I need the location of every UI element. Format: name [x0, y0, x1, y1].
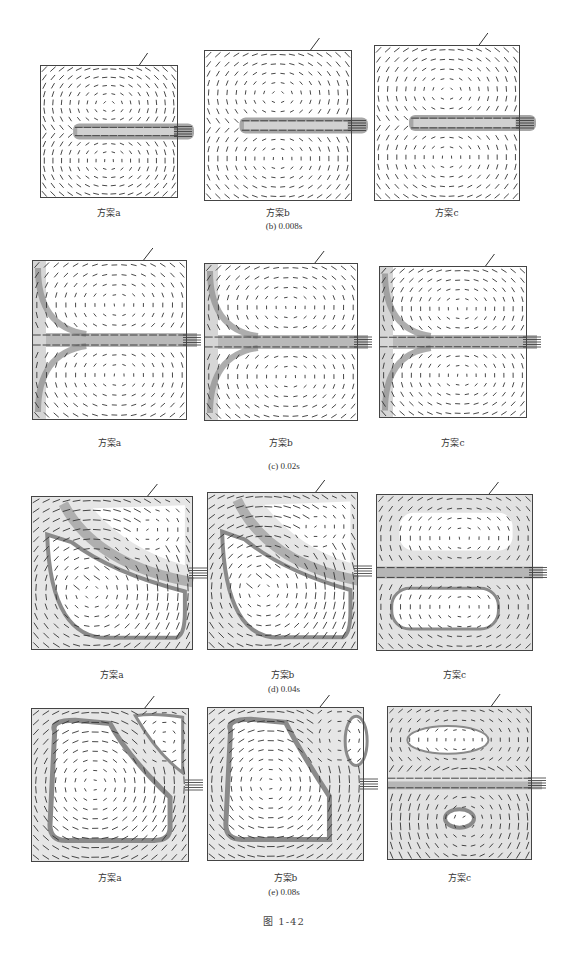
vector-field-panel: [374, 45, 520, 201]
vector-field-panel: [207, 492, 358, 650]
panel-caption: 方案b: [238, 206, 318, 219]
subfigure-label: (c) 0.02s: [234, 461, 334, 471]
panel-caption: 方案b: [246, 871, 326, 884]
figure-label: 图 1-42: [234, 913, 334, 928]
subfigure-label: (b) 0.008s: [234, 221, 334, 231]
panel-caption: 方案a: [72, 668, 152, 681]
panel-caption: 方案c: [413, 436, 493, 449]
panel-caption: 方案a: [70, 871, 150, 884]
flow-field-plot: [374, 45, 520, 201]
subfigure-label: (d) 0.04s: [234, 684, 334, 694]
vector-field-panel: [31, 708, 189, 862]
flow-field-plot: [387, 706, 532, 860]
flow-field-plot: [379, 266, 527, 418]
vector-field-panel: [40, 65, 178, 198]
vector-field-panel: [387, 706, 532, 860]
vector-field-panel: [204, 50, 352, 201]
flow-field-plot: [207, 707, 364, 861]
panel-caption: 方案b: [241, 436, 321, 449]
flow-field-plot: [376, 494, 533, 651]
flow-field-plot: [204, 50, 352, 201]
panel-caption: 方案c: [407, 206, 487, 219]
panel-caption: 方案c: [415, 668, 495, 681]
vector-field-panel: [376, 494, 533, 651]
flow-field-plot: [207, 492, 358, 650]
flow-field-plot: [40, 65, 178, 198]
vector-field-panel: [204, 263, 358, 421]
panel-caption: 方案a: [70, 436, 150, 449]
panel-caption: 方案b: [243, 668, 323, 681]
flow-field-plot: [31, 496, 193, 650]
vector-field-panel: [207, 707, 364, 861]
flow-field-plot: [31, 708, 189, 862]
flow-field-plot: [32, 260, 187, 420]
vector-field-panel: [379, 266, 527, 418]
panel-caption: 方案c: [420, 871, 500, 884]
vector-field-panel: [31, 496, 193, 650]
vector-field-panel: [32, 260, 187, 420]
panel-caption: 方案a: [69, 206, 149, 219]
subfigure-label: (e) 0.08s: [234, 887, 334, 897]
flow-field-plot: [204, 263, 358, 421]
